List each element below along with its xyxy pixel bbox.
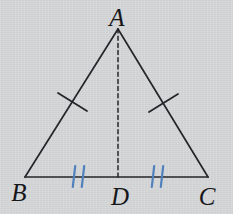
tick-bd-1 [73, 166, 75, 187]
side-ab [25, 29, 118, 177]
tick-bd-2 [82, 166, 84, 187]
vertex-label-d: D [111, 184, 129, 209]
vertex-label-c: C [199, 184, 216, 209]
tick-ab [58, 93, 87, 111]
tick-ac [149, 94, 178, 112]
vertex-label-a: A [109, 5, 124, 30]
tick-dc-2 [161, 166, 163, 187]
geometry-diagram: A B C D [0, 0, 233, 214]
vertex-label-b: B [11, 180, 26, 205]
tick-dc-1 [152, 166, 154, 187]
